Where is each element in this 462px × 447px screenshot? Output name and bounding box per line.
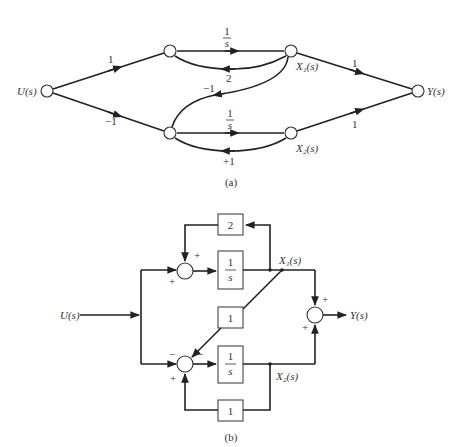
branch-lower-feedback — [175, 138, 286, 151]
node-x1 — [285, 45, 297, 57]
label-output-b: Y(s) — [350, 309, 368, 322]
signal-flow-graph: U(s) X₁(s) X₂(s) Y(s) 1 −1 1 s 2 −1 1 s … — [17, 25, 445, 189]
node-lower-left — [164, 127, 176, 139]
wire-gain2-to-top-sum — [185, 225, 218, 261]
label-x2-b: X₂(s) — [275, 370, 298, 383]
gain-u-lower: −1 — [105, 115, 117, 127]
node-input — [41, 85, 53, 97]
node-x2 — [285, 127, 297, 139]
lower-integrator-num: 1 — [228, 350, 234, 362]
sign-top-input: + — [169, 275, 175, 287]
gain-upper-forward-num: 1 — [224, 25, 230, 37]
wire-gain1-to-bottom-sum — [185, 374, 218, 410]
gain-upper-feedback: 2 — [226, 72, 232, 84]
sign-bottom-cross: − — [197, 348, 203, 360]
label-x1-a: X₁(s) — [295, 60, 318, 73]
node-output — [412, 85, 424, 97]
sign-bottom-input: − — [169, 348, 175, 360]
summing-junction-top — [177, 263, 193, 279]
summing-junction-output — [307, 307, 323, 323]
label-x1-b: X₁(s) — [278, 254, 301, 267]
upper-integrator-num: 1 — [228, 256, 234, 268]
gain-lower-forward-den: s — [228, 119, 232, 131]
label-input-a: U(s) — [17, 85, 37, 98]
upper-feedback-gain: 2 — [228, 219, 234, 231]
sign-out-x2: + — [302, 321, 308, 333]
sign-bottom-feedback: + — [170, 372, 176, 384]
summing-junction-bottom — [177, 356, 193, 372]
gain-lower-forward-num: 1 — [227, 107, 233, 119]
gain-lower-feedback: +1 — [223, 155, 235, 167]
gain-x2-y: 1 — [352, 118, 358, 130]
gain-upper-forward: 1 s — [223, 25, 231, 49]
label-input-b: U(s) — [60, 309, 80, 322]
upper-integrator-den: s — [228, 271, 232, 283]
node-upper-left — [164, 45, 176, 57]
gain-cross-feedback: −1 — [203, 82, 215, 94]
lower-integrator-den: s — [228, 365, 232, 377]
sign-top-feedback: + — [194, 249, 200, 261]
label-output-a: Y(s) — [427, 85, 445, 98]
caption-b: (b) — [225, 431, 238, 444]
diagram-canvas: U(s) X₁(s) X₂(s) Y(s) 1 −1 1 s 2 −1 1 s … — [0, 0, 462, 447]
branch-upper-feedback — [175, 56, 286, 69]
lower-feedback-gain: 1 — [228, 405, 234, 417]
sign-out-x1: + — [322, 293, 328, 305]
gain-u-upper: 1 — [108, 53, 114, 65]
gain-lower-forward: 1 s — [226, 107, 234, 131]
cross-gain: 1 — [228, 312, 234, 324]
wire-x1-to-cross-gain — [243, 270, 282, 309]
wire-x2-to-gain1 — [243, 364, 270, 410]
gain-x1-y: 1 — [352, 57, 358, 69]
block-diagram: U(s) + + 1 s X₁(s) 2 1 − − — [60, 214, 368, 444]
caption-a: (a) — [225, 176, 238, 189]
wire-x1-to-gain2 — [246, 225, 270, 270]
label-x2-a: X₂(s) — [295, 142, 318, 155]
gain-upper-forward-den: s — [225, 37, 229, 49]
